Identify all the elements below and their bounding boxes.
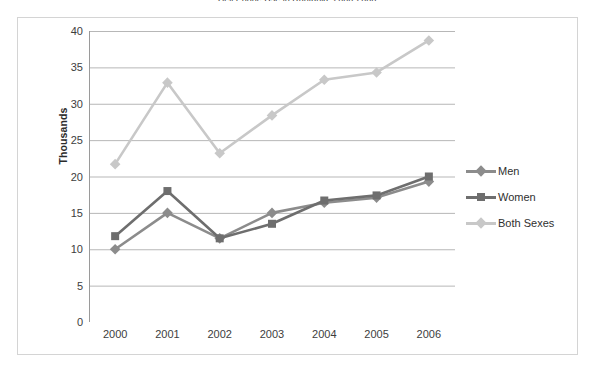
chart-title: Cell Phone Use in Ruritania, 2000-2006 <box>0 0 594 1</box>
plot-area <box>89 31 455 322</box>
data-point-marker <box>320 197 328 205</box>
y-tick-label: 15 <box>57 207 83 219</box>
legend-item-both-sexes[interactable]: Both Sexes <box>466 210 570 236</box>
data-point-marker <box>216 234 224 242</box>
x-axis-tick-labels: 2000200120022003200420052006 <box>89 328 455 348</box>
y-tick-label: 0 <box>57 316 83 328</box>
y-tick-label: 25 <box>57 134 83 146</box>
x-tick-label: 2003 <box>244 328 300 340</box>
x-tick-label: 2006 <box>401 328 457 340</box>
legend-label: Women <box>498 191 536 203</box>
legend-item-men[interactable]: Men <box>466 158 570 184</box>
data-point-marker <box>268 220 276 228</box>
data-point-marker <box>425 173 433 181</box>
series-women <box>111 173 433 243</box>
legend-swatch <box>466 190 496 204</box>
data-point-marker <box>267 208 278 219</box>
data-point-marker <box>163 187 171 195</box>
data-point-marker <box>373 191 381 199</box>
y-tick-label: 30 <box>57 98 83 110</box>
legend-label: Men <box>498 165 519 177</box>
chart-container: Cell Phone Use in Ruritania, 2000-2006 T… <box>0 0 594 371</box>
y-axis-tick-labels: 0510152025303540 <box>55 31 83 322</box>
series-men <box>110 176 434 254</box>
data-point-marker <box>111 232 119 240</box>
legend-swatch <box>466 164 496 178</box>
legend-item-women[interactable]: Women <box>466 184 570 210</box>
series-both-sexes <box>110 35 434 169</box>
x-tick-label: 2002 <box>192 328 248 340</box>
y-tick-label: 35 <box>57 61 83 73</box>
x-tick-label: 2004 <box>296 328 352 340</box>
chart-legend: MenWomenBoth Sexes <box>466 158 570 236</box>
x-tick-label: 2001 <box>139 328 195 340</box>
y-tick-label: 10 <box>57 243 83 255</box>
series-line <box>115 177 429 239</box>
legend-marker-square <box>477 193 485 201</box>
x-tick-label: 2005 <box>349 328 405 340</box>
y-tick-label: 5 <box>57 280 83 292</box>
series-line <box>115 40 429 164</box>
x-tick-label: 2000 <box>87 328 143 340</box>
legend-label: Both Sexes <box>498 217 554 229</box>
plot-svg <box>89 31 455 322</box>
y-tick-label: 40 <box>57 25 83 37</box>
y-tick-label: 20 <box>57 171 83 183</box>
legend-swatch <box>466 216 496 230</box>
legend-marker-diamond <box>475 217 486 228</box>
legend-marker-diamond <box>475 165 486 176</box>
